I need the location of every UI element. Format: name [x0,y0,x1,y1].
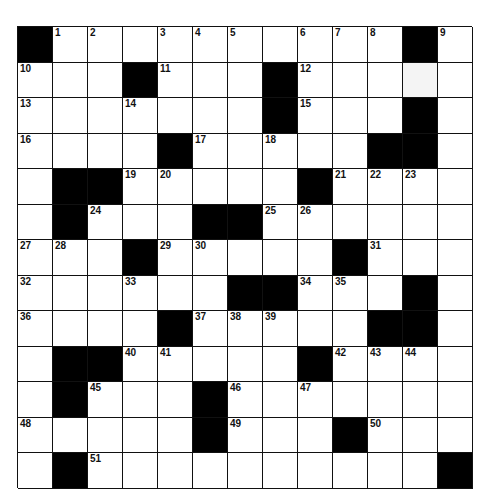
grid-cell-r7-c8[interactable]: 34 [298,276,333,312]
grid-cell-r8-c12[interactable] [438,311,473,347]
grid-cell-r7-c5[interactable] [193,276,228,312]
grid-cell-r8-c2[interactable] [88,311,123,347]
grid-cell-r4-c3[interactable]: 19 [123,169,158,205]
grid-cell-r5-c7[interactable]: 25 [263,205,298,241]
grid-cell-r1-c6[interactable] [228,63,263,99]
grid-cell-r5-c9[interactable] [333,205,368,241]
grid-cell-r0-c12[interactable]: 9 [438,27,473,63]
grid-cell-r9-c0[interactable] [18,347,53,383]
grid-cell-r9-c9[interactable]: 42 [333,347,368,383]
grid-cell-r8-c3[interactable] [123,311,158,347]
grid-cell-r0-c8[interactable]: 6 [298,27,333,63]
grid-cell-r2-c9[interactable] [333,98,368,134]
grid-cell-r3-c8[interactable] [298,134,333,170]
grid-cell-r0-c4[interactable]: 3 [158,27,193,63]
grid-cell-r7-c9[interactable]: 35 [333,276,368,312]
grid-cell-r4-c4[interactable]: 20 [158,169,193,205]
grid-cell-r9-c6[interactable] [228,347,263,383]
grid-cell-r7-c4[interactable] [158,276,193,312]
grid-cell-r11-c1[interactable] [53,418,88,454]
grid-cell-r7-c2[interactable] [88,276,123,312]
grid-cell-r3-c7[interactable]: 18 [263,134,298,170]
grid-cell-r4-c10[interactable]: 22 [368,169,403,205]
grid-cell-r6-c4[interactable]: 29 [158,240,193,276]
grid-cell-r8-c0[interactable]: 36 [18,311,53,347]
grid-cell-r2-c0[interactable]: 13 [18,98,53,134]
grid-cell-r2-c3[interactable]: 14 [123,98,158,134]
grid-cell-r10-c9[interactable] [333,382,368,418]
grid-cell-r1-c12[interactable] [438,63,473,99]
grid-cell-r3-c9[interactable] [333,134,368,170]
grid-cell-r12-c11[interactable] [403,453,438,489]
grid-cell-r2-c1[interactable] [53,98,88,134]
grid-cell-r12-c7[interactable] [263,453,298,489]
grid-cell-r4-c6[interactable] [228,169,263,205]
grid-cell-r10-c4[interactable] [158,382,193,418]
grid-cell-r10-c10[interactable] [368,382,403,418]
grid-cell-r0-c7[interactable] [263,27,298,63]
grid-cell-r7-c12[interactable] [438,276,473,312]
grid-cell-r5-c2[interactable]: 24 [88,205,123,241]
grid-cell-r11-c4[interactable] [158,418,193,454]
grid-cell-r3-c12[interactable] [438,134,473,170]
grid-cell-r10-c6[interactable]: 46 [228,382,263,418]
grid-cell-r7-c10[interactable] [368,276,403,312]
grid-cell-r11-c6[interactable]: 49 [228,418,263,454]
grid-cell-r12-c8[interactable] [298,453,333,489]
grid-cell-r12-c9[interactable] [333,453,368,489]
grid-cell-r12-c4[interactable] [158,453,193,489]
grid-cell-r2-c2[interactable] [88,98,123,134]
grid-cell-r5-c3[interactable] [123,205,158,241]
grid-cell-r10-c11[interactable] [403,382,438,418]
grid-cell-r0-c1[interactable]: 1 [53,27,88,63]
grid-cell-r9-c11[interactable]: 44 [403,347,438,383]
grid-cell-r1-c4[interactable]: 11 [158,63,193,99]
grid-cell-r2-c10[interactable] [368,98,403,134]
grid-cell-r10-c7[interactable] [263,382,298,418]
grid-cell-r9-c12[interactable] [438,347,473,383]
grid-cell-r0-c5[interactable]: 4 [193,27,228,63]
grid-cell-r10-c12[interactable] [438,382,473,418]
grid-cell-r6-c5[interactable]: 30 [193,240,228,276]
grid-cell-r12-c10[interactable] [368,453,403,489]
grid-cell-r12-c6[interactable] [228,453,263,489]
grid-cell-r6-c10[interactable]: 31 [368,240,403,276]
grid-cell-r6-c6[interactable] [228,240,263,276]
grid-cell-r4-c5[interactable] [193,169,228,205]
grid-cell-r2-c12[interactable] [438,98,473,134]
grid-cell-r5-c4[interactable] [158,205,193,241]
grid-cell-r4-c9[interactable]: 21 [333,169,368,205]
grid-cell-r9-c3[interactable]: 40 [123,347,158,383]
grid-cell-r4-c7[interactable] [263,169,298,205]
grid-cell-r2-c5[interactable] [193,98,228,134]
grid-cell-r6-c1[interactable]: 28 [53,240,88,276]
grid-cell-r10-c8[interactable]: 47 [298,382,333,418]
grid-cell-r0-c3[interactable] [123,27,158,63]
grid-cell-r8-c6[interactable]: 38 [228,311,263,347]
grid-cell-r7-c0[interactable]: 32 [18,276,53,312]
grid-cell-r1-c1[interactable] [53,63,88,99]
grid-cell-r6-c2[interactable] [88,240,123,276]
grid-cell-r1-c0[interactable]: 10 [18,63,53,99]
grid-cell-r9-c10[interactable]: 43 [368,347,403,383]
grid-cell-r3-c0[interactable]: 16 [18,134,53,170]
grid-cell-r3-c1[interactable] [53,134,88,170]
grid-cell-r12-c0[interactable] [18,453,53,489]
grid-cell-r11-c7[interactable] [263,418,298,454]
grid-cell-r12-c5[interactable] [193,453,228,489]
grid-cell-r5-c12[interactable] [438,205,473,241]
grid-cell-r1-c5[interactable] [193,63,228,99]
grid-cell-r1-c10[interactable] [368,63,403,99]
grid-cell-r5-c10[interactable] [368,205,403,241]
grid-cell-r11-c8[interactable] [298,418,333,454]
grid-cell-r11-c11[interactable] [403,418,438,454]
grid-cell-r9-c7[interactable] [263,347,298,383]
grid-cell-r12-c3[interactable] [123,453,158,489]
grid-cell-r8-c9[interactable] [333,311,368,347]
grid-cell-r11-c0[interactable]: 48 [18,418,53,454]
grid-cell-r10-c0[interactable] [18,382,53,418]
grid-cell-r6-c0[interactable]: 27 [18,240,53,276]
grid-cell-r8-c5[interactable]: 37 [193,311,228,347]
grid-cell-r11-c12[interactable] [438,418,473,454]
grid-cell-r0-c10[interactable]: 8 [368,27,403,63]
